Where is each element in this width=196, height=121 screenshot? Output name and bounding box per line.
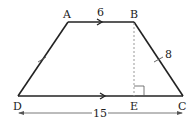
length-label-ab: 6 [97, 6, 104, 19]
vertex-label-b: B [130, 8, 138, 21]
vertex-label-a: A [62, 8, 72, 21]
vertex-label-d: D [13, 100, 22, 113]
vertex-label-c: C [178, 100, 186, 113]
trapezoid-diagram: A B D E C 6 8 15 [0, 0, 196, 121]
vertex-label-e: E [130, 100, 138, 113]
length-label-dc: 15 [93, 107, 107, 120]
length-label-bc: 8 [165, 48, 172, 61]
right-angle-marker [134, 86, 144, 96]
